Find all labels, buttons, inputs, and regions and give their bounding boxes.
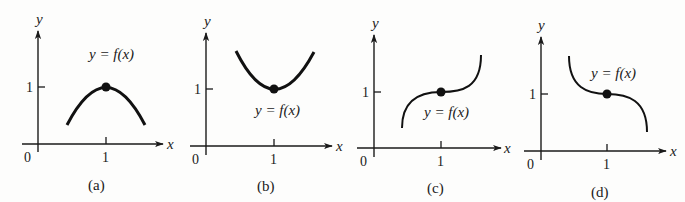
panel-caption: (a) [88, 177, 105, 194]
y-axis-label: y [370, 15, 379, 31]
x-axis-label: x [166, 136, 174, 152]
y-tick-label: 1 [362, 85, 369, 100]
marked-point [102, 83, 111, 92]
panel-b: y x 1 1 0 y = f(x) (b) [190, 13, 343, 195]
function-label: y = f(x) [589, 65, 636, 82]
y-axis-label: y [536, 17, 545, 33]
origin-label: 0 [527, 157, 534, 172]
x-tick-label: 1 [437, 154, 444, 169]
function-label: y = f(x) [87, 46, 134, 63]
origin-label: 0 [192, 152, 199, 167]
y-tick-label: 1 [529, 87, 536, 102]
panel-caption: (b) [257, 178, 275, 195]
marked-point [603, 90, 612, 99]
x-axis-label: x [669, 143, 677, 159]
panel-caption: (d) [591, 184, 609, 201]
x-axis-label: x [335, 138, 343, 154]
y-axis-label: y [202, 13, 211, 29]
figure-four-function-graphs: y x 1 1 0 y = f(x) (a) y x 1 1 0 y = f(x… [0, 0, 685, 202]
panel-caption: (c) [427, 180, 444, 197]
function-curve [236, 51, 314, 89]
panel-c: y x 1 1 0 y = f(x) (c) [357, 15, 511, 197]
marked-point [270, 85, 279, 94]
y-tick-label: 1 [194, 82, 201, 97]
origin-label: 0 [24, 150, 31, 165]
marked-point [437, 88, 446, 97]
y-axis-label: y [34, 11, 43, 27]
x-tick-label: 1 [270, 152, 277, 167]
x-tick-label: 1 [102, 150, 109, 165]
panel-a: y x 1 1 0 y = f(x) (a) [22, 11, 174, 194]
x-tick-label: 1 [603, 157, 610, 172]
y-tick-label: 1 [26, 80, 33, 95]
panel-d: y x 1 1 0 y = f(x) (d) [524, 17, 677, 201]
x-axis-label: x [503, 140, 511, 156]
origin-label: 0 [360, 154, 367, 169]
function-curve [67, 88, 145, 126]
function-label: y = f(x) [422, 104, 469, 121]
function-label: y = f(x) [253, 102, 300, 119]
